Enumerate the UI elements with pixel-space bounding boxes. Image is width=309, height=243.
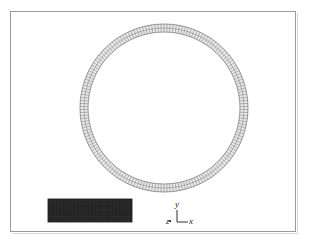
axis-label-y: y [175,200,179,209]
coordinate-axis-triad: y x z [160,200,204,230]
figure-frame [10,11,296,232]
axis-label-z: z [166,217,170,226]
finite-element-mesh-figure: y x z [0,0,309,243]
axis-label-x: x [189,217,193,226]
